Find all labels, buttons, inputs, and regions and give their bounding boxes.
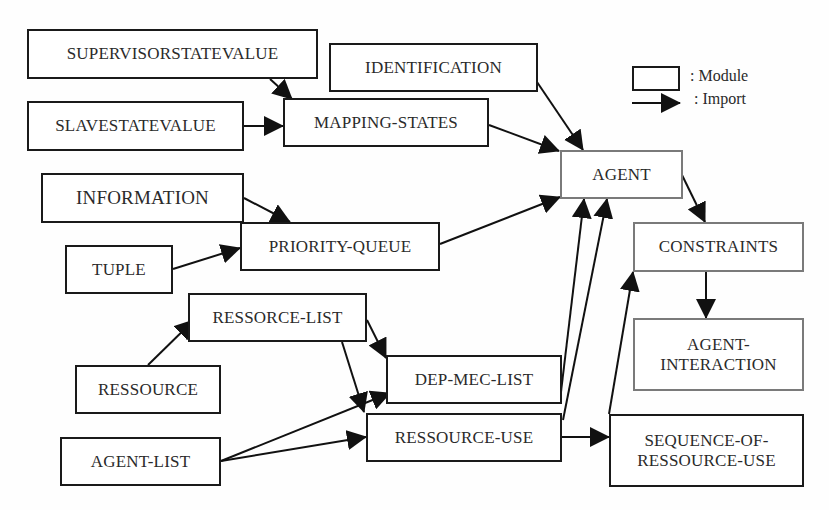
import-arrow-supervisorstatevalue-to-mapping-states [270,79,292,99]
module-tuple: TUPLE [65,245,173,294]
import-arrow-sequence-of-ressource-use-to-constraints [609,272,633,414]
module-label: RESSOURCE [98,380,198,400]
module-information: INFORMATION [41,173,244,223]
module-dep-mec-list: DEP-MEC-LIST [386,355,562,404]
module-label: IDENTIFICATION [365,58,502,78]
module-slavestatevalue: SLAVESTATEVALUE [27,101,244,151]
import-arrow-information-to-priority-queue [244,198,290,222]
module-label: AGENT- INTERACTION [660,335,776,375]
import-arrow-identification-to-agent [537,82,583,150]
import-arrow-tuple-to-priority-queue [173,248,240,269]
module-label: RESSOURCE-USE [395,428,534,448]
import-arrow-mapping-states-to-agent [489,125,559,151]
module-constraints: CONSTRAINTS [633,222,804,272]
module-label: PRIORITY-QUEUE [269,237,412,257]
module-label: SEQUENCE-OF- RESSOURCE-USE [637,431,776,471]
import-arrow-agent-list-to-dep-mec-list [221,393,390,461]
module-label: RESSORCE-LIST [212,308,342,328]
import-arrow-priority-queue-to-agent [440,197,560,244]
module-sequence-of-ressource-use: SEQUENCE-OF- RESSOURCE-USE [609,414,804,487]
module-agent-interaction: AGENT- INTERACTION [633,318,804,391]
import-arrow-ressource-use-to-agent [563,199,607,420]
module-label: SLAVESTATEVALUE [55,116,216,136]
module-mapping-states: MAPPING-STATES [283,98,489,147]
module-priority-queue: PRIORITY-QUEUE [240,222,440,271]
import-arrow-agent-list-to-ressource-use [221,437,366,461]
module-ressorce-list: RESSORCE-LIST [188,293,367,342]
module-agent: AGENT [560,150,683,199]
legend-module-icon [632,66,680,91]
module-label: AGENT [592,165,651,185]
import-arrow-ressorce-list-to-dep-mec-list [367,320,386,358]
import-arrow-ressorce-list-to-ressource-use [342,342,364,412]
legend-import-label: : Import [694,90,746,108]
import-arrow-agent-to-constraints [682,175,705,222]
module-label: AGENT-LIST [91,452,191,472]
module-ressource-use: RESSOURCE-USE [366,413,562,462]
module-identification: IDENTIFICATION [329,43,538,92]
legend-module-label: : Module [690,67,748,85]
module-label: CONSTRAINTS [659,237,778,257]
module-ressource: RESSOURCE [75,365,221,414]
module-agent-list: AGENT-LIST [60,437,221,486]
module-label: INFORMATION [76,188,209,208]
module-label: MAPPING-STATES [314,113,458,133]
module-label: DEP-MEC-LIST [415,370,534,390]
module-label: SUPERVISORSTATEVALUE [67,44,279,64]
module-supervisorstatevalue: SUPERVISORSTATEVALUE [27,29,318,79]
module-label: TUPLE [92,260,146,280]
import-arrow-dep-mec-list-to-agent [561,199,584,392]
module-import-diagram: : Module : Import SUPERVISORSTATEVALUESL… [0,0,829,510]
